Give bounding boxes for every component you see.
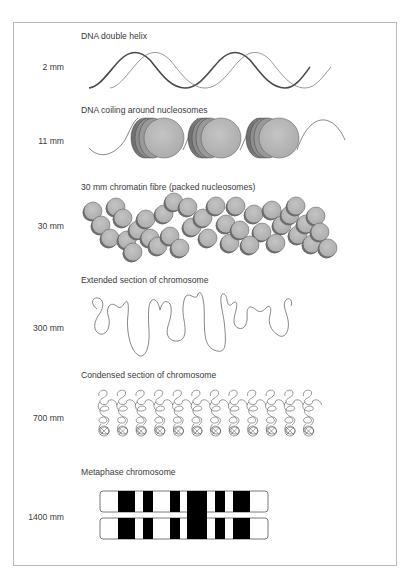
condensed-loop-column (98, 390, 117, 436)
extended-chromosome-loop (93, 293, 292, 356)
dark-band-lower (215, 518, 225, 539)
nucleosome-disc (207, 197, 225, 215)
nucleosome (188, 118, 241, 158)
dark-band-upper (233, 491, 250, 512)
nucleosome-disc (267, 234, 285, 252)
nucleosome-disc (227, 197, 245, 215)
nucleosome-disc (124, 243, 142, 261)
nucleosome-string (89, 118, 345, 158)
condensed-loop-column (154, 390, 173, 436)
nucleosome-disc (114, 209, 132, 227)
nucleosome-disc (245, 205, 263, 223)
condensed-loop-column (210, 390, 229, 436)
condensed-loop-column (284, 390, 303, 436)
nucleosome-disc (319, 239, 337, 257)
condensed-loop-column (303, 390, 322, 436)
dark-band-upper (170, 491, 180, 512)
nucleosome-disc (101, 229, 119, 247)
nucleosome-disc (199, 229, 217, 247)
dark-band-upper (143, 491, 153, 512)
condensed-loop-column (173, 390, 192, 436)
nucleosome-disc (171, 239, 189, 257)
nucleosome-disc (263, 201, 281, 219)
chromatin-diagram (0, 0, 405, 580)
nucleosome-disc (311, 223, 329, 241)
condensed-loop-column (191, 390, 210, 436)
condensed-loop-column (266, 390, 285, 436)
nucleosome (246, 118, 299, 158)
condensed-loop-column (135, 390, 154, 436)
nucleosome-disc (241, 236, 259, 254)
dark-band-upper (215, 491, 225, 512)
dark-band-lower (170, 518, 180, 539)
nucleosome-disc (231, 221, 249, 239)
nucleosome-disc (179, 198, 197, 216)
dark-band-lower (233, 518, 250, 539)
dark-band-lower (143, 518, 153, 539)
condensed-loop-column (117, 390, 136, 436)
metaphase-chromosome (100, 491, 268, 539)
helix-strand-dark (89, 53, 310, 89)
chromatin-fibre (83, 193, 338, 263)
condensed-chromosome (98, 390, 321, 436)
extended-chromatin-path (93, 293, 292, 356)
dark-band-lower (118, 518, 135, 539)
nucleosome-disc (137, 210, 155, 228)
centromere-band (187, 491, 207, 539)
nucleosome (131, 118, 184, 158)
nucleosome-disc (287, 197, 305, 215)
dark-band-upper (118, 491, 135, 512)
nucleosome-disc (307, 207, 325, 225)
condensed-loop-column (247, 390, 266, 436)
condensed-loop-column (228, 390, 247, 436)
dna-double-helix (89, 53, 331, 89)
